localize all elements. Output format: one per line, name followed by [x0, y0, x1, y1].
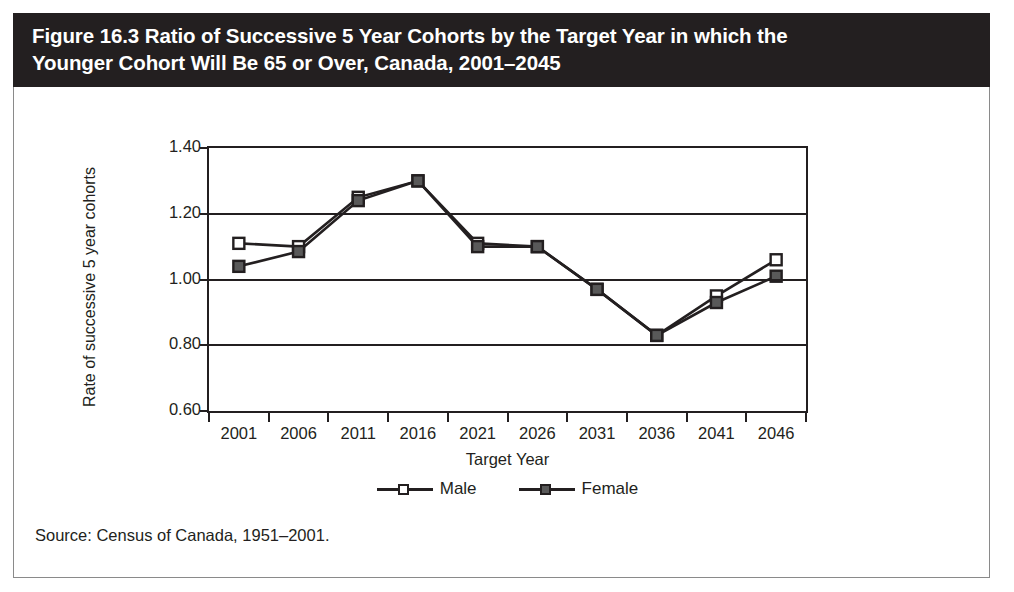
data-point-marker: [412, 175, 423, 186]
data-point-marker: [771, 254, 782, 265]
series-female: [233, 175, 781, 341]
x-axis-tick-label: 2001: [209, 424, 269, 443]
filled-square-marker-icon: [540, 484, 551, 495]
x-axis-title: Target Year: [207, 450, 808, 469]
data-point-marker: [592, 284, 603, 295]
x-axis-tick-label: 2016: [388, 424, 448, 443]
legend-line-male: [377, 482, 433, 496]
data-point-marker: [711, 297, 722, 308]
y-axis-tick-label: 0.60: [145, 400, 201, 419]
x-axis-tick-mark: [626, 413, 628, 422]
y-axis-tick-label: 1.40: [145, 137, 201, 156]
data-point-marker: [233, 238, 244, 249]
legend-item-female[interactable]: Female: [519, 479, 639, 499]
legend-line-female: [519, 482, 575, 496]
data-point-marker: [233, 261, 244, 272]
gridline: [209, 213, 806, 215]
chart-canvas: Rate of successive 5 year cohorts 0.600.…: [0, 0, 1014, 592]
y-axis-title: Rate of successive 5 year cohorts: [81, 137, 99, 437]
open-square-marker-icon: [398, 484, 409, 495]
source-note: Source: Census of Canada, 1951–2001.: [35, 526, 329, 545]
gridline: [209, 344, 806, 346]
x-axis-tick-mark: [745, 413, 747, 422]
x-axis-tick-label: 2046: [746, 424, 806, 443]
legend-item-male[interactable]: Male: [377, 479, 477, 499]
x-axis-tick-label: 2011: [328, 424, 388, 443]
x-axis-tick-mark: [327, 413, 329, 422]
data-point-marker: [293, 246, 304, 257]
x-axis-tick-mark: [566, 413, 568, 422]
x-axis-tick-mark: [447, 413, 449, 422]
data-point-marker: [651, 330, 662, 341]
legend-label-male: Male: [440, 479, 477, 499]
x-axis-tick-mark: [208, 413, 210, 422]
data-point-marker: [353, 195, 364, 206]
legend-label-female: Female: [582, 479, 639, 499]
x-axis-tick-label: 2006: [269, 424, 329, 443]
y-axis-tick-label: 1.00: [145, 269, 201, 288]
x-axis-tick-mark: [507, 413, 509, 422]
series-line: [239, 181, 776, 336]
chart-legend: Male Female: [207, 479, 808, 499]
data-point-marker: [532, 241, 543, 252]
x-axis-tick-mark: [805, 413, 807, 422]
series-line: [239, 181, 776, 336]
x-axis-tick-mark: [686, 413, 688, 422]
gridline: [209, 279, 806, 281]
x-axis-tick-label: 2041: [686, 424, 746, 443]
figure-container: Figure 16.3 Ratio of Successive 5 Year C…: [0, 0, 1014, 592]
x-axis-tick-mark: [268, 413, 270, 422]
x-axis-tick-mark: [387, 413, 389, 422]
x-axis-tick-label: 2021: [448, 424, 508, 443]
x-axis-tick-label: 2036: [627, 424, 687, 443]
y-axis-tick-label: 0.80: [145, 334, 201, 353]
y-axis-tick-label: 1.20: [145, 203, 201, 222]
plot-area: [207, 146, 808, 413]
x-axis-tick-label: 2031: [567, 424, 627, 443]
series-male: [233, 175, 781, 341]
x-axis-tick-label: 2026: [507, 424, 567, 443]
data-point-marker: [472, 241, 483, 252]
